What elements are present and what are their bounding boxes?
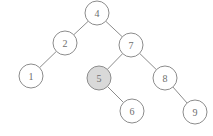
tree-node[interactable]: 2 [53,31,77,55]
node-label: 4 [95,8,100,19]
node-label: 8 [163,73,168,84]
tree-edge [74,21,89,35]
tree-edge [106,21,123,37]
node-label: 5 [97,73,102,84]
tree-edge [140,53,157,69]
node-label: 9 [193,107,198,118]
tree-node[interactable]: 5 [87,66,111,90]
node-label: 2 [63,38,68,49]
tree-node[interactable]: 1 [19,64,43,88]
tree-edge [107,54,122,70]
node-label: 6 [130,106,135,117]
tree-edge [107,86,123,102]
tree-node[interactable]: 8 [153,66,177,90]
node-label: 1 [29,71,34,82]
tree-node[interactable]: 7 [119,33,143,57]
node-label: 7 [129,40,134,51]
tree-node[interactable]: 4 [85,1,109,25]
binary-tree-diagram: 42715869 [0,0,213,136]
tree-node[interactable]: 6 [120,99,144,123]
tree-node[interactable]: 9 [183,100,207,124]
tree-canvas: 42715869 [0,0,213,136]
nodes-group: 42715869 [19,1,207,124]
tree-edge [40,51,57,67]
tree-edge [173,87,187,103]
